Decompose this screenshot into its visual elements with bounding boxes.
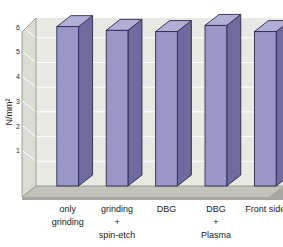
bar-side-face — [177, 21, 191, 186]
bar-side-face — [79, 16, 93, 186]
y-tick-label: 1 — [16, 147, 20, 154]
bar — [57, 16, 93, 186]
bar-side-face — [227, 14, 241, 186]
x-category-label: DBG — [206, 204, 226, 214]
bar-front-face — [254, 32, 276, 186]
bar-front-face — [156, 32, 178, 186]
y-axis-ticks: 123456 — [16, 24, 20, 155]
x-category-label: spin-etch — [99, 230, 136, 240]
plot-left-wall — [22, 18, 36, 197]
x-category-label: grinding — [101, 204, 133, 214]
bar — [205, 14, 241, 186]
x-category-label: grinding — [52, 217, 84, 227]
x-category-label: + — [213, 217, 218, 227]
y-tick-label: 3 — [16, 98, 20, 105]
bar-front-face — [106, 30, 128, 186]
bar-side-face — [276, 21, 283, 186]
x-category-label: Plasma — [201, 230, 231, 240]
y-tick-label: 6 — [16, 24, 20, 31]
x-category-label: DBG — [157, 204, 177, 214]
plot-floor-top — [22, 186, 283, 197]
bar-front-face — [57, 27, 79, 186]
x-category-label: Front side — [245, 204, 283, 214]
bar-chart: 123456 N/mm² onlygrindinggrinding+spin-e… — [0, 0, 283, 247]
y-tick-label: 2 — [16, 123, 20, 130]
bar — [254, 21, 283, 186]
bar — [156, 21, 192, 186]
x-category-label: only — [59, 204, 76, 214]
x-category-label: + — [114, 217, 119, 227]
bar-side-face — [128, 19, 142, 186]
y-tick-label: 4 — [16, 73, 20, 80]
x-axis-category-labels: onlygrindinggrinding+spin-etchDBGDBG+Pla… — [52, 204, 283, 240]
y-tick-label: 5 — [16, 48, 20, 55]
chart-canvas: 123456 N/mm² onlygrindinggrinding+spin-e… — [0, 0, 283, 247]
bar-front-face — [205, 25, 227, 186]
y-axis-title: N/mm² — [4, 99, 14, 126]
bar — [106, 19, 142, 186]
